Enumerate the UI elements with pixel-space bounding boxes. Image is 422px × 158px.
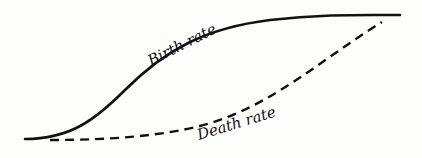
- diagram-canvas: Birth rate Death rate: [0, 0, 422, 158]
- death-rate-label: Death rate: [194, 103, 278, 144]
- birth-rate-label: Birth rate: [144, 20, 220, 70]
